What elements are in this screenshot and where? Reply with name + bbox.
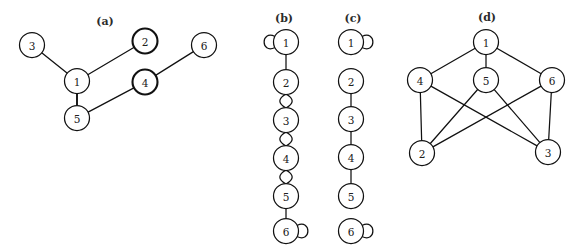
node-label-5: 5 (283, 191, 290, 203)
edge-layer (420, 48, 551, 147)
node-2[interactable]: 2 (339, 69, 364, 94)
edge-3-4-arc1 (286, 132, 292, 146)
node-label-2: 2 (283, 77, 290, 89)
panel-caption-a: (a) (96, 15, 114, 28)
node-3[interactable]: 3 (274, 108, 299, 133)
node-label-4: 4 (142, 77, 149, 89)
node-label-4: 4 (348, 152, 355, 164)
node-6[interactable]: 6 (540, 68, 565, 93)
node-label-1: 1 (348, 37, 355, 49)
node-layer: 312645 (20, 29, 217, 131)
node-4[interactable]: 4 (274, 146, 299, 171)
node-label-2: 2 (348, 76, 355, 88)
panel-caption-b: (b) (275, 12, 293, 25)
node-1[interactable]: 1 (65, 69, 90, 94)
node-6[interactable]: 6 (339, 219, 364, 244)
edge-1-6 (496, 48, 541, 74)
edge-4-3 (430, 86, 537, 146)
node-label-5: 5 (348, 191, 355, 203)
panel-d: 145623(d) (408, 11, 565, 166)
panel-a: 312645(a) (20, 15, 217, 131)
node-3[interactable]: 3 (536, 140, 561, 165)
node-label-2: 2 (419, 148, 426, 160)
node-3[interactable]: 3 (339, 107, 364, 132)
node-4[interactable]: 4 (408, 68, 433, 93)
graph-figure: 312645(a)123456(b)123456(c)145623(d) (0, 0, 582, 250)
node-1[interactable]: 1 (339, 30, 364, 55)
node-1[interactable]: 1 (474, 30, 499, 55)
panel-caption-d: (d) (478, 11, 496, 24)
node-label-3: 3 (545, 147, 552, 159)
node-6[interactable]: 6 (192, 33, 217, 58)
node-2[interactable]: 2 (410, 141, 435, 166)
panel-c: 123456(c) (339, 12, 373, 244)
panels-root: 312645(a)123456(b)123456(c)145623(d) (20, 11, 565, 244)
node-label-4: 4 (283, 153, 290, 165)
edge-1-4 (430, 48, 475, 74)
node-label-5: 5 (74, 113, 81, 125)
edge-5-4 (88, 88, 135, 113)
edge-4-6 (155, 51, 194, 75)
edge-4-5-arc2 (280, 170, 286, 184)
edge-3-4-arc2 (280, 132, 286, 146)
edge-2-3-arc2 (280, 94, 286, 108)
edge-6-3 (549, 92, 552, 140)
edge-3-1 (41, 53, 67, 74)
node-label-3: 3 (283, 115, 290, 127)
node-label-6: 6 (549, 75, 556, 87)
node-5[interactable]: 5 (274, 184, 299, 209)
node-2[interactable]: 2 (274, 70, 299, 95)
node-5[interactable]: 5 (65, 106, 90, 131)
node-label-2: 2 (142, 36, 149, 48)
panel-b: 123456(b) (264, 12, 308, 244)
node-5[interactable]: 5 (474, 68, 499, 93)
node-label-6: 6 (348, 226, 355, 238)
node-4[interactable]: 4 (339, 145, 364, 170)
node-3[interactable]: 3 (20, 33, 45, 58)
node-6[interactable]: 6 (274, 219, 299, 244)
node-label-1: 1 (74, 76, 81, 88)
node-label-3: 3 (29, 40, 36, 52)
panel-caption-c: (c) (344, 12, 361, 25)
node-label-1: 1 (483, 37, 490, 49)
node-label-1: 1 (283, 37, 290, 49)
node-label-6: 6 (201, 40, 208, 52)
node-label-3: 3 (348, 114, 355, 126)
node-4[interactable]: 4 (133, 70, 158, 95)
node-1[interactable]: 1 (274, 30, 299, 55)
node-5[interactable]: 5 (339, 184, 364, 209)
edge-4-2 (420, 92, 421, 141)
node-2[interactable]: 2 (133, 29, 158, 54)
node-label-4: 4 (417, 75, 424, 87)
edge-6-2 (432, 86, 541, 147)
edge-2-3-arc1 (286, 94, 292, 108)
node-label-6: 6 (283, 226, 290, 238)
node-layer: 145623 (408, 30, 565, 166)
edge-4-5-arc1 (286, 170, 292, 184)
edge-1-2 (87, 47, 134, 75)
node-label-5: 5 (483, 75, 490, 87)
